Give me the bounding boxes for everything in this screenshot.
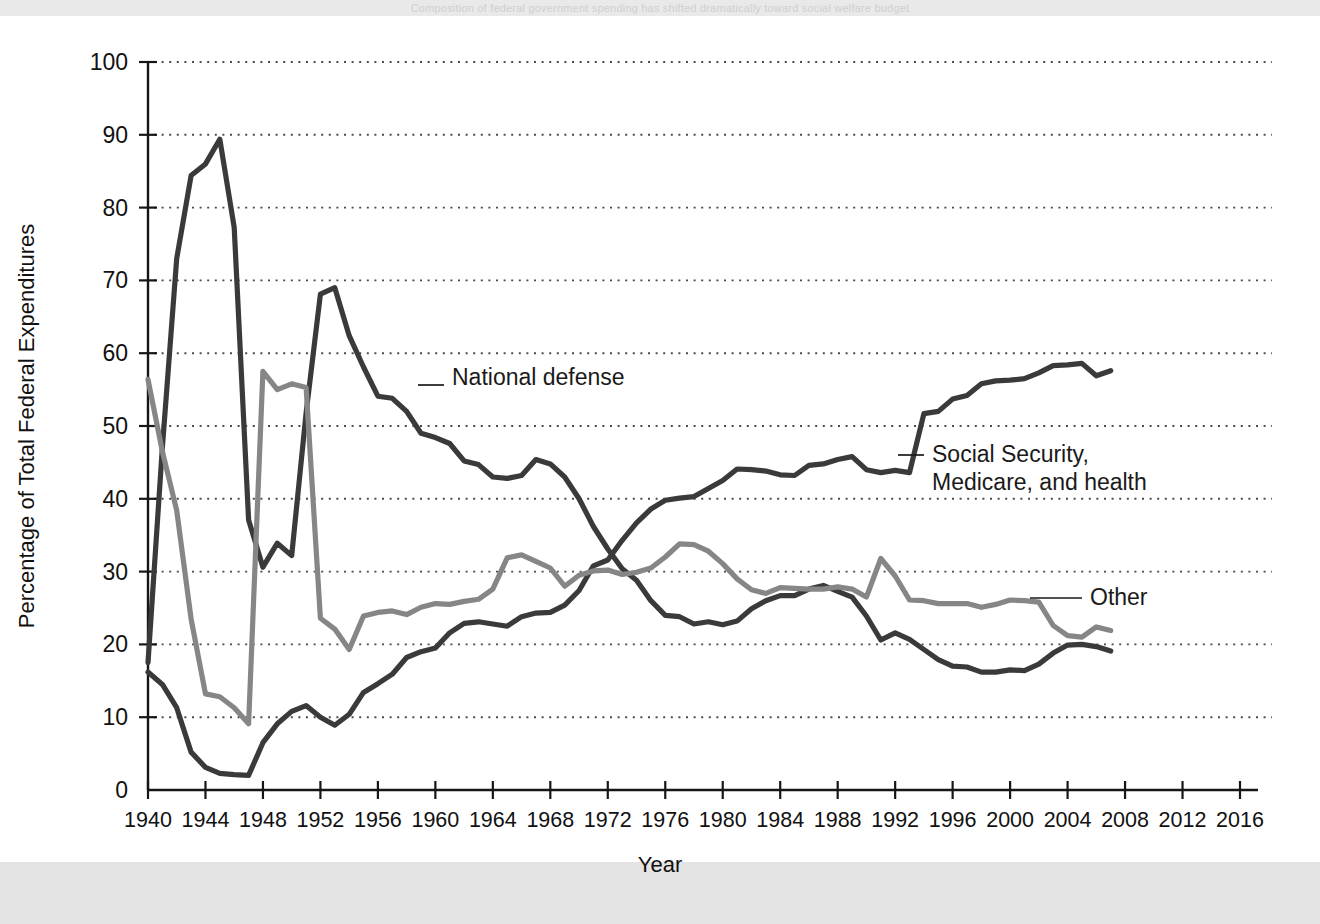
y-axis-title: Percentage of Total Federal Expenditures [14,224,39,628]
annotation-line: National defense [452,364,625,390]
y-tick-label-0: 0 [115,777,128,803]
x-tick-label-2008: 2008 [1101,808,1149,832]
x-tick-label-2012: 2012 [1159,808,1207,832]
x-tick-label-1956: 1956 [354,808,402,832]
x-tick-label-2016: 2016 [1216,808,1264,832]
x-axis-title: Year [638,852,682,877]
x-tick-label-1952: 1952 [296,808,344,832]
x-tick-label-1992: 1992 [871,808,919,832]
x-tick-label-2004: 2004 [1044,808,1092,832]
x-tick-label-1980: 1980 [699,808,747,832]
annotation-line: Other [1090,584,1148,610]
y-axis-tick-labels: 0102030405060708090100 [90,49,128,803]
annotation-line: Social Security, [932,441,1089,467]
annotation-other: Other [1090,584,1148,610]
chart-svg: 0102030405060708090100 19401944194819521… [0,0,1320,924]
y-tick-label-50: 50 [102,413,128,439]
x-tick-label-1944: 1944 [182,808,230,832]
x-tick-label-2000: 2000 [986,808,1034,832]
series-line-national-defense [148,139,1111,672]
y-tick-label-40: 40 [102,486,128,512]
y-tick-label-80: 80 [102,195,128,221]
y-tick-label-10: 10 [102,704,128,730]
y-tick-label-30: 30 [102,559,128,585]
x-tick-label-1960: 1960 [411,808,459,832]
annotation-national-defense: National defense [452,364,625,390]
y-tick-label-100: 100 [90,49,128,75]
x-tick-label-1940: 1940 [124,808,172,832]
x-tick-label-1972: 1972 [584,808,632,832]
x-tick-label-1948: 1948 [239,808,287,832]
x-tick-label-1984: 1984 [756,808,804,832]
x-tick-label-1996: 1996 [929,808,977,832]
series-annotations: National defenseSocial Security,Medicare… [418,364,1148,610]
x-tick-label-1976: 1976 [641,808,689,832]
x-tick-label-1988: 1988 [814,808,862,832]
y-tick-label-20: 20 [102,631,128,657]
x-axis-tick-labels: 1940194419481952195619601964196819721976… [124,808,1264,832]
chart-figure: 0102030405060708090100 19401944194819521… [0,0,1320,924]
annotation-social-security: Social Security,Medicare, and health [932,441,1147,495]
y-tick-label-60: 60 [102,340,128,366]
y-tick-label-90: 90 [102,122,128,148]
annotation-line: Medicare, and health [932,469,1147,495]
y-tick-label-70: 70 [102,267,128,293]
x-tick-label-1968: 1968 [526,808,574,832]
x-tick-label-1964: 1964 [469,808,517,832]
